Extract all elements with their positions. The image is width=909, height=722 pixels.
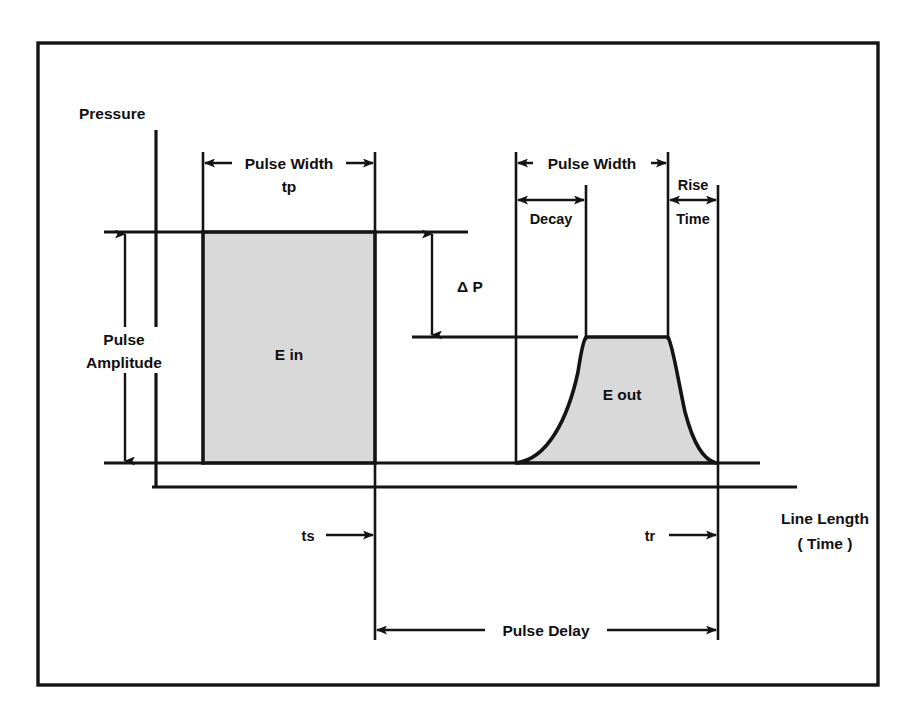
pulse-width-left-label: Pulse Width (245, 155, 334, 172)
e-in-label: E in (275, 346, 303, 363)
pulse-amplitude-label-line2: Amplitude (86, 354, 162, 371)
tr-label: tr (645, 528, 656, 544)
rise-time-label-line2: Time (676, 211, 710, 227)
delta-p-label: Δ P (457, 278, 483, 295)
pulse-amplitude-label-line1: Pulse (103, 331, 145, 348)
e-out-label: E out (603, 386, 642, 403)
pulse-width-left-symbol: tp (282, 178, 297, 195)
pulse-width-right-label: Pulse Width (548, 155, 637, 172)
pulse-diagram: Pulse Width Pulse Width tp Pulse Width R… (0, 0, 909, 722)
pulse-diagram-svg: Pulse Width Pulse Width tp Pulse Width R… (0, 0, 909, 722)
decay-label: Decay (530, 211, 573, 227)
x-axis-label-line1: Line Length (781, 510, 869, 527)
pulse-delay-label: Pulse Delay (502, 622, 589, 639)
y-axis-label: Pressure (79, 105, 146, 122)
ts-label: ts (302, 528, 315, 544)
rise-time-label-line1: Rise (678, 177, 709, 193)
x-axis-label-line2: ( Time ) (798, 535, 853, 552)
